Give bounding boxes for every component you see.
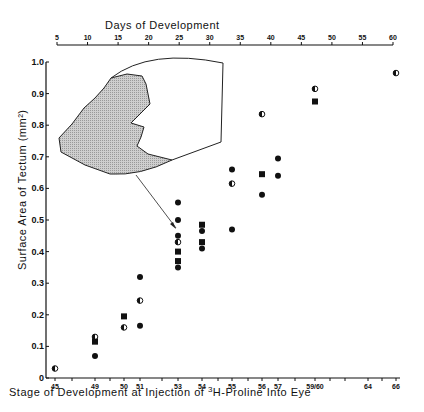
data-point-filled-circle — [92, 353, 98, 359]
top-tick-label: 25 — [175, 34, 183, 41]
top-tick-label: 30 — [206, 34, 214, 41]
data-point-filled-circle — [175, 233, 181, 239]
data-point-filled-circle — [259, 192, 265, 198]
data-point-filled-circle — [229, 226, 235, 232]
top-tick-label: 20 — [145, 34, 153, 41]
y-tick-label: 0.9 — [31, 89, 44, 99]
top-tick-label: 55 — [359, 34, 367, 41]
top-axis-days: 51015202530354045505560 — [55, 34, 397, 45]
data-point-filled-circle — [229, 166, 235, 172]
data-point-filled-square — [175, 249, 181, 255]
data-point-half-filled-circle — [121, 325, 127, 331]
y-tick-label: 0.5 — [31, 215, 44, 225]
top-tick-label: 50 — [328, 34, 336, 41]
top-tick-label: 15 — [114, 34, 122, 41]
data-point-filled-square — [199, 222, 205, 228]
top-tick-label: 5 — [55, 34, 59, 41]
arrow-head-icon — [170, 222, 176, 229]
top-tick-label: 45 — [297, 34, 305, 41]
x-axis-title-prefix: Stage of Development at Injection of — [9, 386, 208, 398]
data-point-half-filled-circle — [312, 86, 318, 92]
data-point-half-filled-circle — [259, 111, 265, 117]
data-point-filled-square — [175, 258, 181, 264]
x-tick-label: 66 — [392, 383, 400, 390]
data-point-filled-square — [121, 313, 127, 319]
y-tick-label: 0.1 — [31, 341, 44, 351]
inset-tectum-drawing — [59, 58, 223, 229]
data-point-filled-square — [312, 99, 318, 105]
data-point-filled-circle — [199, 245, 205, 251]
y-tick-label: 0.6 — [31, 183, 44, 193]
y-tick-label: 0 — [39, 373, 44, 383]
data-point-filled-circle — [199, 228, 205, 234]
y-axis: 00.10.20.30.40.50.60.70.80.91.0 — [31, 57, 49, 383]
y-tick-label: 0.3 — [31, 278, 44, 288]
top-tick-label: 60 — [389, 34, 397, 41]
x-axis-title-suffix: H-Proline Into Eye — [213, 386, 311, 398]
x-tick-label: 64 — [364, 383, 372, 390]
data-point-half-filled-circle — [393, 70, 399, 76]
y-tick-label: 0.4 — [31, 247, 44, 257]
data-point-filled-circle — [275, 173, 281, 179]
data-point-half-filled-circle — [52, 366, 58, 372]
y-tick-label: 0.2 — [31, 310, 44, 320]
y-tick-label: 0.8 — [31, 120, 44, 130]
x-axis-title: Stage of Development at Injection of 3H-… — [9, 385, 311, 398]
top-tick-label: 40 — [267, 34, 275, 41]
data-point-filled-circle — [175, 264, 181, 270]
y-tick-label: 0.7 — [31, 152, 44, 162]
tectum-shaded-region — [59, 74, 172, 174]
data-point-filled-square — [199, 239, 205, 245]
y-tick-label: 1.0 — [31, 57, 44, 67]
data-point-filled-square — [259, 171, 265, 177]
data-point-half-filled-circle — [175, 239, 181, 245]
top-tick-label: 35 — [236, 34, 244, 41]
data-point-filled-circle — [175, 200, 181, 206]
data-point-filled-circle — [137, 323, 143, 329]
top-axis-title: Days of Development — [105, 19, 220, 31]
data-point-filled-square — [92, 339, 98, 345]
data-point-half-filled-circle — [137, 298, 143, 304]
top-tick-label: 10 — [84, 34, 92, 41]
inset-arrow — [136, 175, 176, 228]
y-axis-title: Surface Area of Tectum (mm²) — [16, 109, 28, 270]
data-point-filled-circle — [137, 274, 143, 280]
data-point-filled-circle — [175, 217, 181, 223]
scatter-chart: 51015202530354045505560 Days of Developm… — [0, 0, 424, 412]
data-point-filled-circle — [275, 155, 281, 161]
data-point-half-filled-circle — [229, 181, 235, 187]
